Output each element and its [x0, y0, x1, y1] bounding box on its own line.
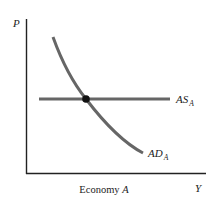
- p-axis-label: P: [12, 17, 20, 29]
- caption-variable: A: [121, 184, 129, 195]
- y-axis-label: Y: [195, 182, 203, 194]
- as-label: ASA: [175, 93, 194, 108]
- caption-prefix: Economy: [79, 184, 122, 195]
- ad-label: ADA: [147, 147, 169, 162]
- as-label-sub: A: [188, 99, 194, 108]
- ad-label-sub: A: [163, 153, 169, 162]
- as-label-main: AS: [175, 93, 189, 105]
- economy-a-chart: P Y ASA ADA Economy A: [0, 0, 216, 203]
- ad-label-main: AD: [147, 147, 163, 159]
- equilibrium-point: [82, 95, 90, 103]
- ad-curve: [53, 37, 143, 153]
- chart-caption: Economy A: [79, 184, 129, 195]
